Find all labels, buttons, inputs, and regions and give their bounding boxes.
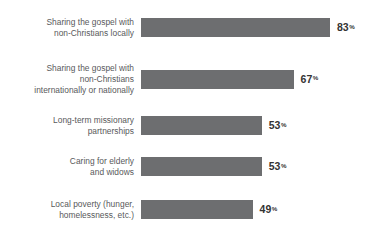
bar-track: 49% xyxy=(141,200,277,219)
bar-area: 49% xyxy=(141,200,378,219)
bar-track: 53% xyxy=(141,157,286,176)
horizontal-bar-chart: Sharing the gospel with non-Christians l… xyxy=(0,0,378,240)
bar-fill xyxy=(141,157,262,176)
bar-fill xyxy=(141,18,330,37)
bar-row: Sharing the gospel with non-Christians i… xyxy=(0,63,378,95)
bar-category-label: Local poverty (hunger, homelessness, etc… xyxy=(0,199,134,221)
percent-sign: % xyxy=(281,162,287,169)
bar-category-label: Sharing the gospel with non-Christians i… xyxy=(0,63,134,95)
bar-value-label: 49% xyxy=(260,204,278,215)
bar-track: 53% xyxy=(141,116,286,135)
bar-category-label: Sharing the gospel with non-Christians l… xyxy=(0,17,134,39)
bar-value-number: 53 xyxy=(269,120,281,131)
bar-row: Caring for elderly and widows 53% xyxy=(0,156,378,178)
bar-fill xyxy=(141,200,253,219)
bar-fill xyxy=(141,116,262,135)
percent-sign: % xyxy=(272,205,278,212)
bar-fill xyxy=(141,70,294,89)
bar-value-label: 53% xyxy=(269,161,287,172)
bar-category-label: Caring for elderly and widows xyxy=(0,156,134,178)
percent-sign: % xyxy=(349,23,355,30)
bar-row: Sharing the gospel with non-Christians l… xyxy=(0,17,378,39)
bar-value-label: 67% xyxy=(301,74,319,85)
bar-area: 83% xyxy=(141,18,378,37)
percent-sign: % xyxy=(313,74,319,81)
bar-value-number: 83 xyxy=(337,22,349,33)
bar-value-label: 53% xyxy=(269,120,287,131)
bar-track: 83% xyxy=(141,18,355,37)
bar-row: Long-term missionary partnerships 53% xyxy=(0,115,378,137)
bar-area: 53% xyxy=(141,157,378,176)
bar-value-number: 53 xyxy=(269,161,281,172)
bar-category-label: Long-term missionary partnerships xyxy=(0,115,134,137)
bar-value-number: 67 xyxy=(301,74,313,85)
bar-track: 67% xyxy=(141,70,318,89)
bar-value-label: 83% xyxy=(337,22,355,33)
bar-value-number: 49 xyxy=(260,204,272,215)
bar-row: Local poverty (hunger, homelessness, etc… xyxy=(0,199,378,221)
bar-area: 67% xyxy=(141,70,378,89)
percent-sign: % xyxy=(281,121,287,128)
bar-area: 53% xyxy=(141,116,378,135)
